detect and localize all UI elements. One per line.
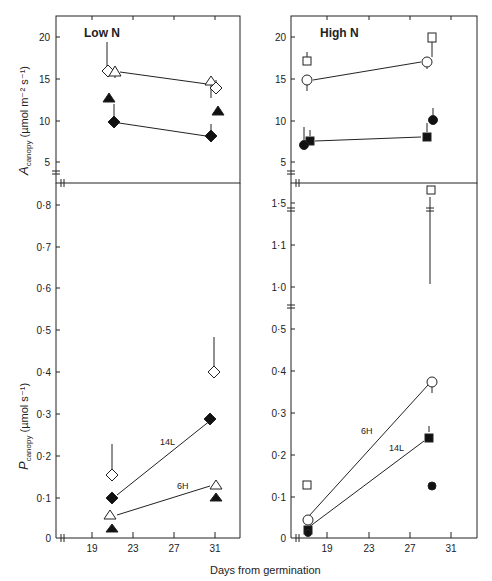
tick-label: 23 (363, 543, 375, 554)
tick-label: 0·3 (272, 408, 287, 419)
right-bottom-markers (303, 186, 437, 537)
left-top-markers (102, 65, 224, 142)
square-open-marker (303, 481, 311, 489)
diamond-filled-marker (204, 413, 216, 425)
tick-label: 0·4 (272, 366, 287, 377)
tick-label: 19 (321, 543, 333, 554)
tick-label: 27 (404, 543, 416, 554)
tick-label: 0·5 (272, 324, 287, 335)
annotation-6H: 6H (177, 481, 189, 491)
tick-label: 0·5 (37, 325, 52, 336)
x-axis-label: Days from germination (210, 564, 321, 576)
tick-label: 20 (275, 32, 287, 43)
circle-filled-marker (305, 530, 312, 537)
diamond-filled-marker (205, 130, 217, 142)
panel-title-low-n: Low N (84, 26, 120, 40)
annotation-14L: 14L (160, 437, 175, 447)
left-top-y-ticks: 20 15 10 5 (39, 32, 51, 168)
right-top-markers (300, 33, 438, 150)
tick-label: 0 (280, 533, 286, 544)
circle-filled-marker (429, 116, 438, 125)
circle-filled-marker (300, 141, 309, 150)
circle-filled-marker (428, 482, 436, 490)
tick-label: 0·4 (37, 367, 52, 378)
circle-open-marker (422, 57, 432, 67)
tick-label: 31 (209, 543, 221, 554)
panel-title-high-n: High N (320, 26, 359, 40)
square-open-marker (303, 57, 311, 65)
tick-label: 10 (275, 116, 287, 127)
diamond-open-marker (106, 469, 118, 481)
annotation-6H: 6H (361, 426, 373, 436)
left-bottom-markers (104, 366, 222, 532)
tick-label: 1·0 (272, 282, 287, 293)
circle-open-marker (302, 75, 312, 85)
tick-label: 0·2 (37, 451, 52, 462)
left-bottom-y-ticks: 0·8 0·7 0·6 0·5 0·4 0·3 0·2 0·1 0 (37, 200, 52, 544)
tick-label: 5 (280, 157, 286, 168)
tick-label: 0 (45, 533, 51, 544)
square-filled-marker (423, 133, 431, 141)
left-bottom-data (112, 337, 214, 515)
tick-label: 27 (168, 543, 180, 554)
triangle-open-marker (104, 510, 116, 519)
tick-label: 5 (44, 157, 50, 168)
circle-open-marker (427, 377, 437, 387)
svg-text:Acanopy (µmol m⁻² s⁻¹): Acanopy (µmol m⁻² s⁻¹) (16, 66, 33, 176)
tick-label: 0·1 (272, 492, 287, 503)
right-top-y-ticks: 20 15 10 5 (275, 32, 287, 168)
square-filled-marker (425, 434, 433, 442)
tick-label: 23 (127, 543, 139, 554)
triangle-filled-marker (103, 93, 115, 102)
annotation-14L: 14L (389, 443, 404, 453)
x-ticks: 19 23 27 31 19 23 27 31 (86, 543, 457, 554)
tick-label: 1·5 (272, 198, 287, 209)
triangle-filled-marker (210, 493, 222, 501)
tick-label: 1·1 (272, 240, 287, 251)
figure: 20 15 10 5 20 15 10 5 0·8 0·7 0·6 0·5 0·… (0, 0, 492, 581)
triangle-open-marker (210, 480, 222, 489)
tick-label: 15 (39, 74, 51, 85)
tick-label: 0·3 (37, 409, 52, 420)
diamond-filled-marker (108, 116, 120, 128)
square-open-marker (428, 33, 436, 42)
tick-label: 0·8 (37, 200, 52, 211)
svg-text:Pcanopy (µmol s⁻¹): Pcanopy (µmol s⁻¹) (16, 383, 33, 470)
tick-label: 0·7 (37, 242, 52, 253)
left-top-data (107, 42, 216, 136)
tick-label: 0·6 (37, 283, 52, 294)
square-open-marker (427, 186, 435, 194)
right-panel (287, 16, 477, 542)
y-axis-label-bottom: Pcanopy (µmol s⁻¹) (16, 383, 33, 470)
diamond-filled-marker (106, 492, 118, 504)
right-bottom-data (309, 197, 434, 527)
tick-label: 0·1 (37, 493, 52, 504)
tick-label: 19 (86, 543, 98, 554)
right-top-data (304, 42, 433, 141)
diamond-open-marker (208, 366, 220, 378)
left-panel (52, 16, 240, 542)
tick-label: 31 (445, 543, 457, 554)
tick-label: 10 (39, 116, 51, 127)
tick-label: 15 (275, 74, 287, 85)
tick-label: 20 (39, 32, 51, 43)
y-axis-label-top: Acanopy (µmol m⁻² s⁻¹) (16, 66, 33, 176)
triangle-filled-marker (212, 106, 224, 115)
circle-open-marker (303, 515, 313, 525)
right-bottom-y-ticks: 1·5 1·1 1·0 0·5 0·4 0·3 0·2 0·1 0 (272, 198, 287, 544)
triangle-filled-marker (106, 524, 118, 532)
tick-label: 0·2 (272, 450, 287, 461)
